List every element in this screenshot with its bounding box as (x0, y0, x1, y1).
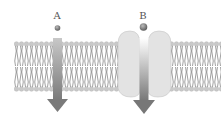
molecule-b-icon (140, 23, 148, 31)
molecule-a: A (52, 10, 61, 31)
molecule-a-icon (55, 25, 61, 31)
lipid-bilayer (14, 40, 221, 93)
membrane-transport-diagram: A B (0, 0, 221, 125)
label-a: A (52, 10, 61, 21)
molecule-b: B (139, 10, 147, 31)
label-b: B (139, 10, 146, 21)
